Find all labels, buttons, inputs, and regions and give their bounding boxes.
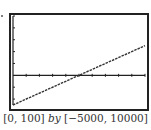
x-range-label: [0, 100] xyxy=(3,112,45,124)
axes xyxy=(13,16,145,105)
y-range-label: [−5000, 10000] xyxy=(64,112,148,124)
by-label: by xyxy=(48,112,61,124)
line-plot xyxy=(0,0,151,130)
window-caption: [0, 100] by [−5000, 10000] xyxy=(0,112,151,124)
